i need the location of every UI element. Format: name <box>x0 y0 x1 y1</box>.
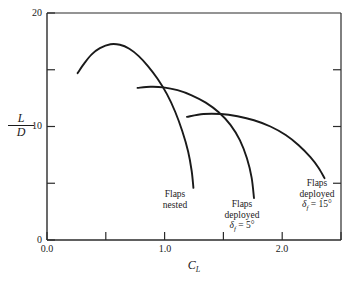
chart-figure: 20 10 0 0.0 1.0 2.0 L D CL Flaps nested … <box>0 0 350 281</box>
curve-series-2 <box>187 114 325 178</box>
curve-series-1 <box>138 87 254 198</box>
annotation-flaps-deployed-5deg-line1: Flaps <box>215 199 269 210</box>
y-axis-ticks-right <box>333 70 341 184</box>
y-axis-title: L D <box>8 112 34 138</box>
annotation-flaps-nested-line1: Flaps <box>152 189 198 200</box>
x-tick-label-2.0: 2.0 <box>268 243 296 254</box>
y-axis-ticks <box>47 13 55 240</box>
annotation-flaps-deployed-15deg: Flaps deployed δf = 15° <box>288 178 346 213</box>
y-tick-label-20: 20 <box>20 7 42 18</box>
annotation-flaps-deployed-5deg: Flaps deployed δf = 5° <box>215 199 269 234</box>
x-tick-label-0.0: 0.0 <box>33 243 61 254</box>
annotation-flaps-deployed-15deg-line2: deployed <box>288 189 346 200</box>
x-axis-title: CL <box>150 258 238 274</box>
annotation-flaps-deployed-15deg-line1: Flaps <box>288 178 346 189</box>
y-axis-title-numerator: L <box>8 112 34 126</box>
x-axis-title-subscript: L <box>196 265 200 274</box>
annotation-flaps-deployed-15deg-line3: δf = 15° <box>288 199 346 213</box>
x-tick-label-1.0: 1.0 <box>151 243 179 254</box>
annotation-15deg-subscript: f <box>307 204 309 212</box>
plot-canvas <box>0 0 350 281</box>
annotation-5deg-value: = 5° <box>238 220 254 230</box>
annotation-flaps-nested-line2: nested <box>152 200 198 211</box>
data-curves <box>78 44 325 198</box>
curve-series-0 <box>78 44 194 188</box>
x-axis-title-symbol: C <box>188 258 196 272</box>
annotation-flaps-deployed-5deg-line3: δf = 5° <box>215 220 269 234</box>
annotation-15deg-value: = 15° <box>311 199 332 209</box>
annotation-flaps-nested: Flaps nested <box>152 189 198 210</box>
annotation-5deg-subscript: f <box>234 225 236 233</box>
annotation-flaps-deployed-5deg-line2: deployed <box>215 210 269 221</box>
y-axis-title-denominator: D <box>8 126 34 139</box>
x-axis-ticks <box>47 232 341 240</box>
